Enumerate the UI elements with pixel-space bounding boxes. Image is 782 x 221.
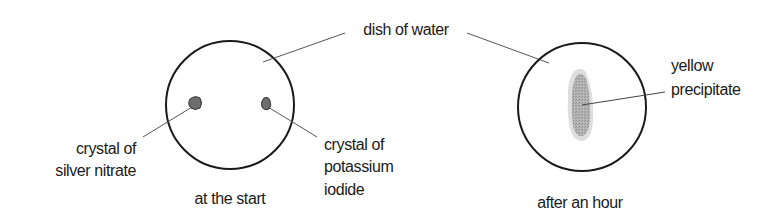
leader-potassium-iodide bbox=[268, 107, 317, 137]
caption-after-an-hour: after an hour bbox=[537, 194, 624, 211]
label-silver-nitrate-line1: crystal of bbox=[76, 140, 137, 157]
reaction-diagram: crystal of silver nitrate crystal of pot… bbox=[0, 0, 782, 221]
label-potassium-iodide-line1: crystal of bbox=[324, 136, 385, 153]
label-yellow-precipitate-line1: yellow bbox=[671, 57, 714, 74]
label-silver-nitrate-line2: silver nitrate bbox=[55, 162, 136, 179]
panel-at-the-start: crystal of silver nitrate crystal of pot… bbox=[55, 41, 393, 207]
panel-after-an-hour: yellow precipitate after an hour bbox=[518, 43, 741, 211]
label-dish-of-water: dish of water bbox=[363, 21, 450, 38]
label-potassium-iodide-line3: iodide bbox=[324, 181, 365, 198]
shared-dish-label: dish of water bbox=[263, 21, 549, 63]
leader-silver-nitrate bbox=[143, 107, 192, 137]
caption-at-the-start: at the start bbox=[195, 190, 267, 207]
label-yellow-precipitate-line2: precipitate bbox=[671, 81, 741, 98]
leader-dish-left bbox=[263, 33, 345, 62]
leader-yellow-precipitate bbox=[582, 92, 665, 105]
label-potassium-iodide-line2: potassium bbox=[324, 158, 393, 175]
dish-start bbox=[166, 41, 294, 169]
leader-dish-right bbox=[467, 33, 549, 63]
